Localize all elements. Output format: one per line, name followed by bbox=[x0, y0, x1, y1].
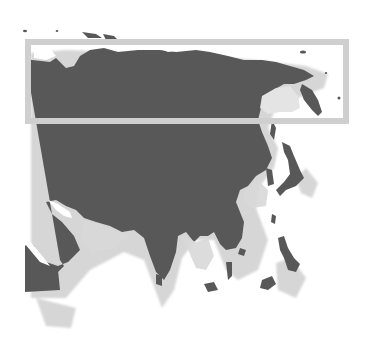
sri-lanka bbox=[156, 274, 162, 286]
asia-map bbox=[0, 0, 378, 340]
